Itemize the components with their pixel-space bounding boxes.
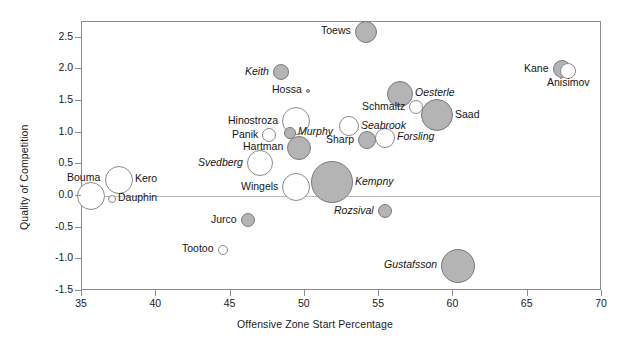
point-label-hossa: Hossa bbox=[272, 84, 302, 95]
bubble-toews[interactable] bbox=[355, 21, 377, 43]
plot-area bbox=[81, 21, 601, 290]
y-axis-tick bbox=[75, 227, 81, 228]
x-axis-tick-label: 70 bbox=[581, 298, 621, 309]
point-label-schmaltz: Schmaltz bbox=[362, 101, 405, 112]
point-label-sharp: Sharp bbox=[326, 134, 354, 145]
y-axis-tick-label: -0.5 bbox=[29, 221, 73, 231]
point-label-toews: Toews bbox=[321, 25, 351, 36]
y-axis-tick bbox=[75, 37, 81, 38]
y-axis-tick-label: 1.5 bbox=[29, 94, 73, 104]
bubble-svedberg[interactable] bbox=[247, 150, 273, 176]
point-label-gustafsson: Gustafsson bbox=[384, 259, 437, 270]
point-label-keith: Keith bbox=[245, 66, 269, 77]
x-axis-tick bbox=[155, 290, 156, 296]
x-axis-tick bbox=[601, 290, 602, 296]
x-axis-tick-label: 55 bbox=[358, 298, 398, 309]
y-axis-tick bbox=[75, 68, 81, 69]
y-axis-tick-label: -1.0 bbox=[29, 252, 73, 262]
point-label-kane: Kane bbox=[524, 63, 549, 74]
clipped-bottom-strip bbox=[0, 332, 630, 348]
point-label-saad: Saad bbox=[455, 109, 480, 120]
x-axis-tick bbox=[81, 290, 82, 296]
point-label-hinostroza: Hinostroza bbox=[228, 115, 278, 126]
bubble-wingels[interactable] bbox=[282, 173, 310, 201]
y-axis-tick bbox=[75, 258, 81, 259]
point-label-panik: Panik bbox=[232, 129, 258, 140]
point-label-svedberg: Svedberg bbox=[198, 157, 243, 168]
y-axis-tick bbox=[75, 195, 81, 196]
x-axis-tick-label: 45 bbox=[210, 298, 250, 309]
bubble-murphy[interactable] bbox=[284, 127, 296, 139]
x-axis-tick-label: 65 bbox=[507, 298, 547, 309]
y-axis-tick-label: 1.0 bbox=[29, 126, 73, 136]
point-label-forsling: Forsling bbox=[397, 131, 434, 142]
y-axis-tick bbox=[75, 163, 81, 164]
y-axis-tick bbox=[75, 132, 81, 133]
x-axis-tick bbox=[527, 290, 528, 296]
bubble-kero[interactable] bbox=[105, 166, 133, 194]
bubble-bouma[interactable] bbox=[77, 182, 105, 210]
y-axis-tick-label: 0.0 bbox=[29, 189, 73, 199]
y-axis-tick-label: 2.0 bbox=[29, 62, 73, 72]
point-label-hartman: Hartman bbox=[243, 141, 283, 152]
x-axis-tick-label: 35 bbox=[61, 298, 101, 309]
point-label-jurco: Jurco bbox=[211, 214, 237, 225]
point-label-wingels: Wingels bbox=[241, 181, 278, 192]
point-label-kempny: Kempny bbox=[355, 176, 394, 187]
point-label-kero: Kero bbox=[135, 173, 157, 184]
bubble-tootoo[interactable] bbox=[218, 245, 228, 255]
x-axis-tick-label: 60 bbox=[432, 298, 472, 309]
y-axis-tick-label: 2.5 bbox=[29, 31, 73, 41]
bubble-gustafsson[interactable] bbox=[441, 249, 475, 283]
y-axis-tick-label: -1.5 bbox=[29, 284, 73, 294]
bubble-keith[interactable] bbox=[273, 64, 289, 80]
bubble-kempny[interactable] bbox=[311, 161, 353, 203]
y-axis-tick bbox=[75, 100, 81, 101]
x-axis-tick bbox=[452, 290, 453, 296]
bubble-dauphin[interactable] bbox=[108, 195, 116, 203]
y-axis-tick-label: 0.5 bbox=[29, 157, 73, 167]
bubble-hartman[interactable] bbox=[287, 136, 311, 160]
x-axis-tick bbox=[304, 290, 305, 296]
x-axis-tick bbox=[230, 290, 231, 296]
bubble-saad[interactable] bbox=[421, 99, 453, 131]
bubble-rozsival[interactable] bbox=[378, 204, 392, 218]
x-axis-tick bbox=[378, 290, 379, 296]
point-label-oesterle: Oesterle bbox=[415, 87, 455, 98]
chart-canvas: 2.52.01.51.00.50.0-0.5-1.0-1.5 354045505… bbox=[0, 0, 630, 350]
clipped-title-strip bbox=[0, 0, 630, 12]
point-label-rozsival: Rozsival bbox=[334, 205, 374, 216]
point-label-dauphin: Dauphin bbox=[118, 192, 157, 203]
x-axis-title: Offensive Zone Start Percentage bbox=[0, 318, 630, 330]
point-label-anisimov: Anisimov bbox=[547, 77, 590, 88]
bubble-jurco[interactable] bbox=[241, 213, 255, 227]
x-axis-tick-label: 40 bbox=[135, 298, 175, 309]
bubble-sharp[interactable] bbox=[358, 131, 376, 149]
point-label-bouma: Bouma bbox=[67, 172, 100, 183]
x-axis-tick-label: 50 bbox=[284, 298, 324, 309]
bubble-hossa[interactable] bbox=[306, 89, 310, 93]
y-axis-title: Quality of Competition bbox=[18, 125, 30, 231]
point-label-tootoo: Tootoo bbox=[182, 243, 214, 254]
